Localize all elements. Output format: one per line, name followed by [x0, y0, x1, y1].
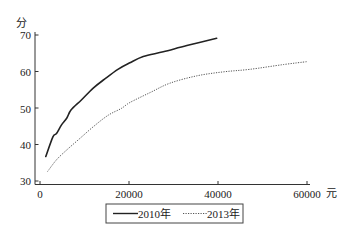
x-ticks [40, 181, 307, 185]
series-line-2010 [46, 38, 217, 156]
y-tick-label-50: 50 [20, 103, 32, 115]
y-tick-label-40: 40 [20, 139, 32, 151]
x-axis-unit-label: 元 [326, 187, 337, 199]
axes [35, 32, 310, 185]
x-tick-label-0: 0 [37, 188, 43, 200]
y-tick-label-30: 30 [20, 175, 32, 187]
x-tick-label-40000: 40000 [204, 188, 232, 200]
legend-label-2010: 2010年 [138, 207, 171, 220]
legend-label-2013: 2013年 [207, 207, 240, 220]
y-ticks [35, 35, 39, 181]
line-chart: 分 元 70 60 50 40 30 0 20000 40000 60000 2… [0, 0, 354, 238]
legend: 2010年 2013年 [106, 204, 243, 223]
series-line-2013 [48, 62, 307, 172]
x-tick-label-60000: 60000 [293, 188, 321, 200]
y-tick-label-70: 70 [20, 29, 32, 41]
y-axis-unit-label: 分 [16, 17, 27, 29]
x-tick-label-20000: 20000 [115, 188, 143, 200]
y-tick-label-60: 60 [20, 66, 32, 78]
